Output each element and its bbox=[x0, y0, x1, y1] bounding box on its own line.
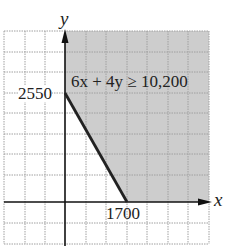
solution-region bbox=[65, 31, 209, 202]
x-intercept-label: 1700 bbox=[106, 205, 140, 222]
y-axis-label: y bbox=[60, 9, 68, 28]
inequality-label: 6x + 4y ≥ 10,200 bbox=[71, 73, 188, 90]
x-axis-label: x bbox=[214, 190, 222, 209]
y-intercept-label: 2550 bbox=[18, 85, 52, 102]
